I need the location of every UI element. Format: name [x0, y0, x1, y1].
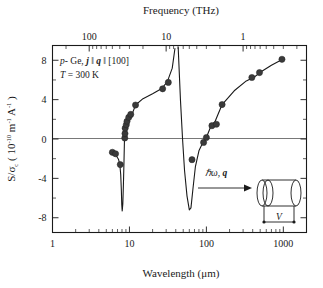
top-axis-title: Frequency (THz)	[143, 4, 219, 17]
top-tick-label-0: 100	[82, 31, 97, 42]
data-point-10	[132, 102, 138, 108]
ylabel-exp-1: -10	[5, 135, 12, 144]
inset-voltage-label: V	[276, 212, 283, 222]
scientific-plot: Frequency (THz) 100101 840-4-8 110100100…	[0, 0, 323, 288]
y-axis-title: S/σc ( 10-10 m-1 A-1 )	[5, 96, 19, 182]
annot-par-2: ‖	[101, 56, 108, 66]
y-tick-label-2: 0	[42, 134, 47, 145]
ylabel-unit-1: m	[5, 123, 17, 135]
inset-photon-symbol: ℏω,	[205, 168, 220, 178]
annot-orientation: [100]	[108, 56, 129, 66]
annot-T-value: = 300 K	[65, 70, 99, 80]
top-tick-label-1: 10	[161, 31, 171, 42]
theory-branch-left	[110, 48, 175, 210]
bottom-tick-label-0: 1	[50, 238, 55, 249]
bottom-axis-tick-labels: 1101001000	[50, 238, 293, 249]
ylabel-open: ( 10	[5, 143, 18, 164]
inset-wavevector-symbol: q	[222, 168, 227, 178]
bottom-axis-title: Wavelength (μm)	[143, 267, 220, 280]
top-axis-tick-labels: 100101	[82, 31, 246, 42]
svg-text:p- Ge, j ‖ q ‖ [100]: p- Ge, j ‖ q ‖ [100]	[59, 56, 129, 66]
data-point-markers	[109, 56, 285, 168]
data-point-2	[117, 161, 123, 167]
top-axis-ticks	[66, 46, 297, 52]
svg-text:T = 300 K: T = 300 K	[60, 70, 99, 80]
annot-par-1: ‖	[89, 56, 96, 66]
top-tick-label-2: 1	[241, 31, 246, 42]
annot-sample-rest: - Ge,	[65, 56, 86, 66]
sample-annotation: p- Ge, j ‖ q ‖ [100] T = 300 K	[59, 56, 129, 80]
data-point-12	[165, 79, 171, 85]
incident-beam-arrow	[198, 185, 252, 192]
data-point-1	[112, 151, 118, 157]
bottom-tick-label-2: 100	[199, 238, 214, 249]
data-point-9	[128, 111, 134, 117]
y-tick-label-3: -4	[38, 173, 46, 184]
data-point-15	[203, 134, 209, 140]
figure-container: Frequency (THz) 100101 840-4-8 110100100…	[0, 0, 323, 288]
experiment-inset-diagram: ℏω, q V	[198, 168, 301, 224]
y-tick-label-4: -8	[38, 212, 46, 223]
data-point-18	[219, 101, 225, 107]
y-axis-tick-labels: 840-4-8	[38, 55, 46, 223]
y-tick-label-1: 4	[42, 94, 47, 105]
ylabel-unit-2: A	[5, 108, 17, 118]
ylabel-close: )	[5, 96, 18, 103]
data-point-20	[256, 69, 262, 75]
bottom-axis-ticks	[53, 227, 307, 233]
cylindrical-sample	[257, 180, 301, 206]
data-point-13	[189, 157, 195, 163]
inset-photon-label: ℏω, q	[205, 168, 227, 178]
bottom-tick-label-1: 10	[124, 238, 134, 249]
bottom-tick-label-3: 1000	[273, 238, 293, 249]
y-tick-label-0: 8	[42, 55, 47, 66]
data-point-11	[160, 86, 166, 92]
data-point-17	[213, 121, 219, 127]
data-point-21	[279, 56, 285, 62]
data-point-19	[249, 74, 255, 80]
